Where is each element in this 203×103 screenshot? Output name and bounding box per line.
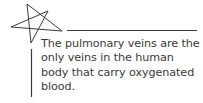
fact-text: The pulmonary veins are the only veins i… [41,37,203,94]
